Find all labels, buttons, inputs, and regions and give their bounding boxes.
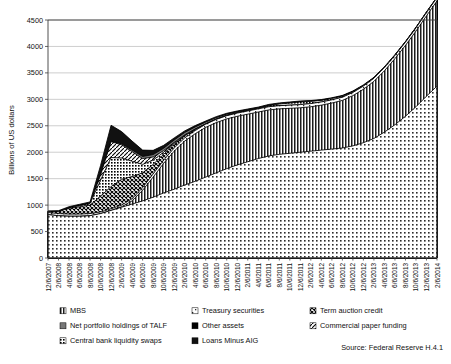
x-tick-label: 12/6/2007 bbox=[45, 263, 52, 292]
legend-swatch bbox=[192, 338, 198, 344]
x-tick-label: 10/6/2011 bbox=[286, 263, 293, 291]
legend-item-loans-minus-aig: Loans Minus AIG bbox=[192, 336, 259, 345]
x-tick-label: 6/6/2009 bbox=[139, 263, 146, 288]
x-tick-label: 8/6/2008 bbox=[87, 263, 94, 288]
y-axis-label: Billions of US dollars bbox=[7, 105, 16, 175]
x-tick-label: 6/6/2011 bbox=[265, 263, 272, 288]
source-note: Source: Federal Reserve H.4.1 bbox=[341, 343, 443, 352]
x-tick-label: 12/6/2013 bbox=[423, 263, 430, 292]
legend-label: Term auction credit bbox=[320, 306, 382, 315]
x-tick-label: 2/6/2013 bbox=[370, 263, 377, 288]
legend-swatch bbox=[310, 308, 316, 314]
y-tick-label: 1500 bbox=[27, 174, 43, 183]
y-tick-label: 2000 bbox=[27, 148, 43, 157]
legend-swatch bbox=[192, 323, 198, 329]
y-tick-label: 3000 bbox=[27, 95, 43, 104]
x-tick-label: 8/6/2012 bbox=[339, 263, 346, 288]
x-tick-label: 10/6/2008 bbox=[97, 263, 104, 292]
x-tick-label: 4/6/2011 bbox=[255, 263, 262, 288]
legend-label: Commercial paper funding bbox=[320, 321, 407, 330]
x-tick-label: 4/6/2010 bbox=[192, 263, 199, 288]
legend-item-term-auction-credit: Term auction credit bbox=[310, 306, 382, 315]
legend-item-net-portfolio-holdings-of-talf: Net portfolio holdings of TALF bbox=[60, 321, 168, 330]
legend-label: Central bank liquidity swaps bbox=[70, 336, 162, 345]
x-tick-label: 10/6/2010 bbox=[223, 263, 230, 292]
legend-label: Net portfolio holdings of TALF bbox=[70, 321, 168, 330]
legend-swatch bbox=[310, 323, 316, 329]
x-tick-label: 6/6/2013 bbox=[391, 263, 398, 288]
y-tick-label: 3500 bbox=[27, 68, 43, 77]
y-tick-label: 4000 bbox=[27, 42, 43, 51]
y-tick-label: 2500 bbox=[27, 121, 43, 130]
x-tick-label: 2/6/2012 bbox=[307, 263, 314, 288]
legend-swatch bbox=[60, 323, 66, 329]
x-tick-label: 10/6/2013 bbox=[412, 263, 419, 292]
x-tick-label: 6/6/2010 bbox=[202, 263, 209, 288]
x-tick-label: 12/6/2011 bbox=[297, 263, 304, 291]
x-tick-label: 2/6/2008 bbox=[55, 263, 62, 288]
legend-label: Other assets bbox=[202, 321, 244, 330]
legend-label: Treasury securities bbox=[202, 306, 264, 315]
legend-item-commercial-paper-funding: Commercial paper funding bbox=[310, 321, 407, 330]
x-tick-label: 2/6/2014 bbox=[434, 263, 441, 288]
x-tick-label: 4/6/2012 bbox=[318, 263, 325, 288]
x-tick-label: 6/6/2012 bbox=[328, 263, 335, 288]
y-tick-label: 0 bbox=[39, 254, 43, 263]
x-tick-label: 8/6/2013 bbox=[402, 263, 409, 288]
x-tick-label: 8/6/2010 bbox=[213, 263, 220, 288]
legend-label: Loans Minus AIG bbox=[202, 336, 259, 345]
chart-canvas: 050010001500200025003000350040004500 12/… bbox=[0, 0, 451, 364]
x-tick-label: 6/6/2008 bbox=[76, 263, 83, 288]
x-tick-label: 12/6/2010 bbox=[234, 263, 241, 292]
x-tick-label: 10/6/2009 bbox=[160, 263, 167, 292]
legend-item-treasury-securities: Treasury securities bbox=[192, 306, 264, 315]
x-tick-label: 4/6/2008 bbox=[66, 263, 73, 288]
legend-swatch bbox=[60, 338, 66, 344]
x-tick-label: 10/6/2012 bbox=[349, 263, 356, 292]
x-tick-label: 12/6/2008 bbox=[108, 263, 115, 292]
legend-swatch bbox=[192, 308, 198, 314]
x-tick-label: 8/6/2009 bbox=[150, 263, 157, 288]
legend-swatch bbox=[60, 308, 66, 314]
x-tick-label: 4/6/2009 bbox=[129, 263, 136, 288]
x-tick-label: 2/6/2011 bbox=[244, 263, 251, 288]
legend-item-central-bank-liquidity-swaps: Central bank liquidity swaps bbox=[60, 336, 162, 345]
y-tick-label: 500 bbox=[31, 227, 43, 236]
y-tick-label: 4500 bbox=[27, 16, 43, 25]
x-tick-label: 12/6/2009 bbox=[171, 263, 178, 292]
x-tick-label: 2/6/2010 bbox=[181, 263, 188, 288]
x-tick-label: 12/6/2012 bbox=[360, 263, 367, 292]
x-tick-label: 4/6/2013 bbox=[381, 263, 388, 288]
y-tick-label: 1000 bbox=[27, 201, 43, 210]
x-tick-label: 2/6/2009 bbox=[118, 263, 125, 288]
x-tick-label: 8/6/2011 bbox=[276, 263, 283, 288]
legend-label: MBS bbox=[70, 306, 86, 315]
federal-reserve-balance-sheet-chart: 050010001500200025003000350040004500 12/… bbox=[0, 0, 451, 364]
